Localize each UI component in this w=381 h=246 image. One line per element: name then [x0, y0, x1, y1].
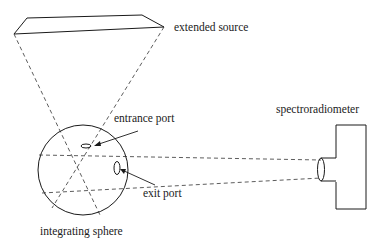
- spectroradiometer-lens: [318, 158, 325, 181]
- label-integrating-sphere: integrating sphere: [40, 226, 123, 238]
- exit-port-shape: [114, 162, 120, 175]
- entrance-port-shape: [81, 144, 91, 148]
- label-spectroradiometer: spectroradiometer: [276, 104, 359, 116]
- diagram-canvas: [0, 0, 381, 246]
- label-entrance-port: entrance port: [114, 113, 174, 125]
- entrance-port-leader: [94, 131, 138, 146]
- label-extended-source: extended source: [174, 22, 248, 34]
- label-exit-port: exit port: [143, 188, 182, 200]
- exit-port-leader: [120, 169, 155, 185]
- extended-source-shape: [14, 15, 164, 34]
- spectroradiometer-body: [321, 125, 366, 209]
